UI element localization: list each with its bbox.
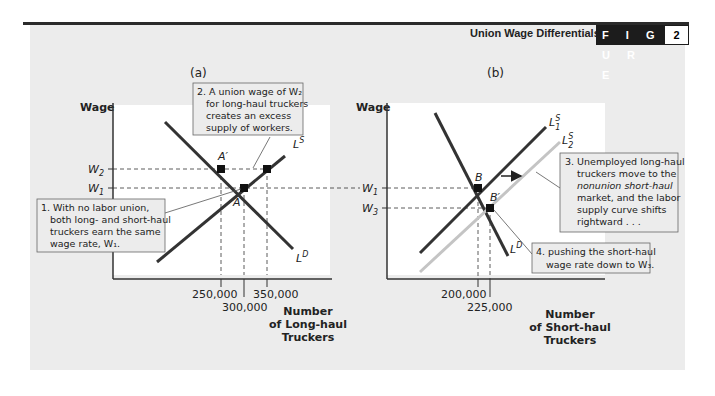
svg-text:of Short-haul: of Short-haul	[529, 321, 611, 334]
svg-text:Truckers: Truckers	[282, 331, 335, 344]
y-axis-label-a: Wage	[80, 101, 115, 114]
svg-text:supply curve shifts: supply curve shifts	[577, 204, 666, 215]
svg-text:rightward . . .: rightward . . .	[577, 216, 641, 227]
svg-text:Number: Number	[283, 305, 333, 318]
label-a-prime: A′	[217, 150, 229, 163]
svg-text:supply of workers.: supply of workers.	[206, 122, 293, 133]
panel-b-label: (b)	[487, 66, 504, 80]
x-tick-200000: 200,000	[441, 288, 487, 301]
figure-graphics: (a) Wage A′ A LS LD W2 W1 250,000 30	[0, 0, 715, 396]
label-a: A	[232, 196, 241, 209]
tick-w3-b: W3	[362, 202, 378, 217]
x-tick-300000: 300,000	[222, 301, 268, 314]
label-b: B	[475, 171, 483, 184]
x-axis-label-a: Number of Long-haul Truckers	[269, 305, 347, 344]
tick-w2-a: W2	[88, 163, 104, 178]
svg-text:1. With no labor union,: 1. With no labor union,	[41, 202, 149, 213]
point-a-prime	[217, 165, 225, 173]
svg-text:market, and the labor: market, and the labor	[577, 192, 681, 203]
panel-a-label: (a)	[190, 66, 207, 80]
svg-text:creates an excess: creates an excess	[206, 110, 291, 121]
svg-text:truckers move to the: truckers move to the	[577, 168, 677, 179]
svg-text:of Long-haul: of Long-haul	[269, 318, 347, 331]
svg-text:both long- and short-haul: both long- and short-haul	[50, 214, 171, 225]
x-axis-label-b: Number of Short-haul Truckers	[529, 308, 611, 347]
point-b-prime	[486, 204, 494, 212]
panel-b: (b) Wage B B′ LS1 LS2 LD W1 W3 200,0	[356, 66, 685, 347]
tick-w1-b: W1	[362, 182, 378, 197]
x-tick-350000: 350,000	[253, 288, 299, 301]
svg-text:truckers earn the same: truckers earn the same	[50, 226, 161, 237]
point-excess-supply	[263, 165, 271, 173]
svg-text:Number: Number	[545, 308, 595, 321]
svg-text:wage rate down to W₃.: wage rate down to W₃.	[546, 259, 654, 270]
svg-text:3. Unemployed long-haul: 3. Unemployed long-haul	[565, 156, 685, 167]
svg-text:4. pushing the short-haul: 4. pushing the short-haul	[536, 246, 656, 257]
point-b	[474, 184, 482, 192]
x-tick-250000: 250,000	[192, 288, 238, 301]
svg-text:nonunion short-haul: nonunion short-haul	[577, 180, 673, 191]
x-tick-225000: 225,000	[467, 301, 513, 314]
svg-text:2. A union wage of W₂: 2. A union wage of W₂	[197, 86, 302, 97]
panel-a: (a) Wage A′ A LS LD W2 W1 250,000 30	[37, 66, 360, 344]
point-a	[240, 184, 248, 192]
y-axis-label-b: Wage	[356, 101, 391, 114]
svg-text:wage rate, W₁.: wage rate, W₁.	[50, 238, 120, 249]
label-b-prime: B′	[490, 191, 501, 204]
tick-w1-a: W1	[88, 182, 104, 197]
svg-text:for long-haul truckers: for long-haul truckers	[206, 98, 308, 109]
svg-text:Truckers: Truckers	[544, 334, 597, 347]
